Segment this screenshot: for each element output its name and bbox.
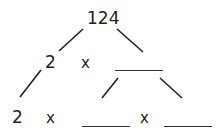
level1-right-blank[interactable] [115, 70, 163, 71]
root-number: 124 [87, 10, 119, 27]
level1-multiply-sign: x [81, 56, 90, 71]
level2-second-blank[interactable] [82, 126, 130, 127]
level2-multiply-sign-1: x [46, 111, 55, 126]
level2-third-blank[interactable] [164, 126, 212, 127]
level2-first-factor: 2 [12, 109, 23, 126]
level2-multiply-sign-2: x [140, 111, 149, 126]
level1-left-factor: 2 [45, 54, 56, 71]
